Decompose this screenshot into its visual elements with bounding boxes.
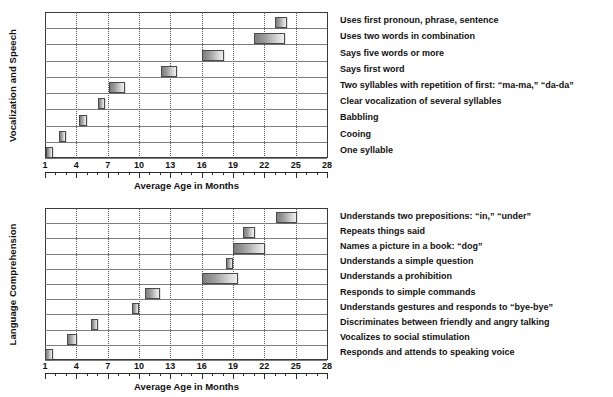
- x-tick-label: 28: [322, 361, 332, 371]
- x-axis-minor-tick: [243, 172, 244, 175]
- bar: [98, 98, 104, 109]
- bar: [91, 319, 98, 330]
- x-tick-label: 28: [322, 160, 332, 170]
- x-axis-minor-tick: [223, 373, 224, 376]
- x-axis-minor-tick: [275, 373, 276, 376]
- gridline: [170, 12, 171, 158]
- row-baseline: [45, 28, 327, 29]
- bar: [145, 288, 160, 299]
- x-axis-major-tick: [139, 373, 140, 379]
- category-label: Babbling: [340, 113, 379, 122]
- x-tick-label: 22: [259, 361, 269, 371]
- x-axis-title-top: Average Age in Months: [45, 180, 328, 191]
- x-axis-major-tick: [264, 172, 265, 178]
- x-axis-minor-tick: [243, 373, 244, 376]
- x-axis-minor-tick: [129, 172, 130, 175]
- bar: [226, 258, 233, 269]
- bar: [132, 303, 139, 314]
- x-axis-major-tick: [202, 373, 203, 379]
- x-axis-minor-tick: [285, 373, 286, 376]
- category-label: Says five words or more: [340, 49, 444, 58]
- category-label: Responds and attends to speaking voice: [340, 348, 515, 357]
- x-axis-minor-tick: [149, 373, 150, 376]
- x-axis-minor-tick: [254, 172, 255, 175]
- row-baseline: [45, 77, 327, 78]
- x-axis-minor-tick: [181, 172, 182, 175]
- gridline: [296, 12, 297, 158]
- category-label: Two syllables with repetition of first: …: [340, 81, 574, 90]
- row-baseline: [45, 238, 327, 239]
- row-baseline: [45, 314, 327, 315]
- category-label: Cooing: [340, 130, 371, 139]
- y-axis-title-top: Vocalization and Speech: [2, 5, 22, 165]
- x-axis-minor-tick: [191, 373, 192, 376]
- x-axis-minor-tick: [97, 172, 98, 175]
- row-baseline: [45, 345, 327, 346]
- x-axis-minor-tick: [181, 373, 182, 376]
- bar: [67, 334, 77, 345]
- x-tick-label: 16: [197, 160, 207, 170]
- gridline: [139, 12, 140, 158]
- category-label: Uses first pronoun, phrase, sentence: [340, 16, 499, 25]
- x-tick-label: 7: [105, 361, 110, 371]
- bar: [45, 349, 53, 360]
- bar: [161, 66, 177, 77]
- x-axis-minor-tick: [212, 172, 213, 175]
- x-tick-label: 19: [228, 160, 238, 170]
- bar: [233, 243, 265, 254]
- x-tick-label: 1: [42, 160, 47, 170]
- x-axis-minor-tick: [97, 373, 98, 376]
- chart-panel-language-comprehension: Language Comprehension 14710131619222528…: [0, 198, 613, 397]
- x-axis-minor-tick: [129, 373, 130, 376]
- x-axis-major-tick: [139, 172, 140, 178]
- category-label: Uses two words in combination: [340, 32, 475, 41]
- x-axis-minor-tick: [118, 172, 119, 175]
- category-label: Understands gestures and responds to “by…: [340, 303, 553, 312]
- x-tick-label: 4: [74, 361, 79, 371]
- row-baseline: [45, 142, 327, 143]
- x-tick-label: 7: [105, 160, 110, 170]
- gridline: [233, 12, 234, 158]
- x-axis-minor-tick: [191, 172, 192, 175]
- row-baseline: [45, 93, 327, 94]
- x-axis-major-tick: [108, 373, 109, 379]
- x-axis-major-tick: [296, 172, 297, 178]
- row-baseline: [45, 330, 327, 331]
- y-axis-title-bottom: Language Comprehension: [2, 204, 22, 364]
- x-tick-label: 10: [134, 160, 144, 170]
- category-label: Understands a prohibition: [340, 272, 452, 281]
- bar: [46, 147, 53, 158]
- row-baseline: [45, 126, 327, 127]
- row-baseline: [45, 284, 327, 285]
- x-tick-label: 22: [259, 160, 269, 170]
- gridline: [76, 12, 77, 158]
- category-label: Names a picture in a book: “dog”: [340, 242, 483, 251]
- x-axis-minor-tick: [66, 172, 67, 175]
- bar: [276, 212, 297, 223]
- chart-panel-vocalization-and-speech: Vocalization and Speech 1471013161922252…: [0, 0, 613, 198]
- x-axis-major-tick: [233, 172, 234, 178]
- x-axis-major-tick: [76, 172, 77, 178]
- x-axis-minor-tick: [254, 373, 255, 376]
- category-label: Understands two prepositions: “in,” “und…: [340, 212, 531, 221]
- row-baseline: [45, 299, 327, 300]
- bar: [202, 273, 239, 284]
- x-axis-major-tick: [170, 172, 171, 178]
- row-baseline: [45, 158, 327, 159]
- row-baseline: [45, 44, 327, 45]
- x-axis-major-tick: [296, 373, 297, 379]
- x-axis-minor-tick: [285, 172, 286, 175]
- category-label: Responds to simple commands: [340, 288, 476, 297]
- x-axis-minor-tick: [212, 373, 213, 376]
- x-axis-minor-tick: [275, 172, 276, 175]
- x-axis-title-bottom: Average Age in Months: [45, 381, 328, 392]
- row-baseline: [45, 109, 327, 110]
- x-tick-label: 13: [165, 160, 175, 170]
- row-baseline: [45, 61, 327, 62]
- category-label: Discriminates between friendly and angry…: [340, 318, 550, 327]
- category-label: Says first word: [340, 65, 405, 74]
- x-axis-major-tick: [233, 373, 234, 379]
- x-axis-major-tick: [327, 172, 328, 178]
- bar: [109, 82, 126, 93]
- x-axis-minor-tick: [149, 172, 150, 175]
